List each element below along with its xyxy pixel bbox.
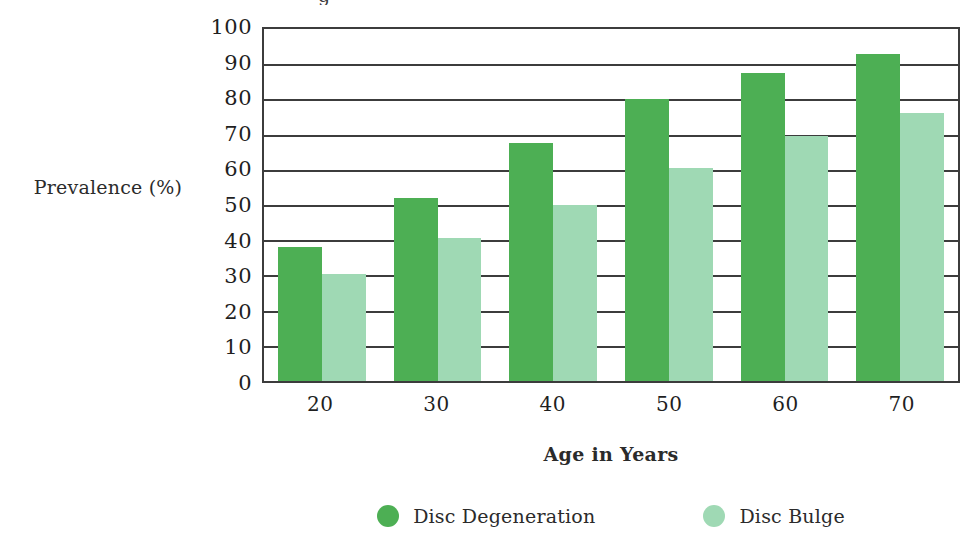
x-axis-tick-label: 60 (727, 392, 843, 416)
cropped-title-fragment: g (318, 0, 332, 5)
y-axis-tick-label: 70 (186, 123, 252, 144)
chart-legend: Disc DegenerationDisc Bulge (262, 505, 960, 527)
bar-disc-bulge-60 (785, 136, 829, 381)
bar-disc-degeneration-70 (856, 54, 900, 381)
y-axis-tick-label: 90 (186, 52, 252, 73)
legend-label: Disc Bulge (739, 505, 844, 527)
bar-disc-degeneration-30 (394, 198, 438, 381)
y-axis-tick-label: 100 (186, 17, 252, 38)
y-axis-tick-label: 20 (186, 301, 252, 322)
y-axis-title: Prevalence (%) (10, 176, 206, 198)
y-axis-tick-label: 50 (186, 195, 252, 216)
y-axis-tick-label: 10 (186, 337, 252, 358)
bar-disc-degeneration-60 (741, 73, 785, 381)
bar-group (842, 29, 958, 381)
x-axis-tick-label: 50 (611, 392, 727, 416)
bar-disc-degeneration-40 (509, 143, 553, 381)
bar-disc-bulge-40 (553, 205, 597, 381)
x-axis-tick-labels: 203040506070 (262, 392, 960, 416)
legend-item-disc-bulge[interactable]: Disc Bulge (703, 505, 844, 527)
x-axis-tick-label: 70 (844, 392, 960, 416)
y-axis-tick-label: 60 (186, 159, 252, 180)
legend-label: Disc Degeneration (413, 505, 595, 527)
bar-group (264, 29, 380, 381)
bar-group (495, 29, 611, 381)
legend-swatch-circle-icon (377, 505, 399, 527)
bar-disc-bulge-20 (322, 274, 366, 381)
bar-disc-degeneration-20 (278, 247, 322, 381)
x-axis-tick-label: 20 (262, 392, 378, 416)
y-axis-tick-label: 0 (186, 373, 252, 394)
bar-disc-bulge-30 (438, 238, 482, 381)
y-axis-tick-labels: 0102030405060708090100 (186, 27, 252, 383)
plot-area (262, 27, 960, 383)
x-axis-tick-label: 30 (378, 392, 494, 416)
bar-disc-bulge-70 (900, 113, 944, 381)
bar-group (727, 29, 843, 381)
bars-layer (264, 29, 958, 381)
legend-swatch-circle-icon (703, 505, 725, 527)
bar-group (611, 29, 727, 381)
x-axis-title: Age in Years (262, 443, 960, 465)
y-axis-tick-label: 40 (186, 230, 252, 251)
y-axis-tick-label: 80 (186, 88, 252, 109)
legend-item-disc-degeneration[interactable]: Disc Degeneration (377, 505, 595, 527)
y-axis-tick-label: 30 (186, 266, 252, 287)
bar-disc-bulge-50 (669, 168, 713, 381)
x-axis-tick-label: 40 (495, 392, 611, 416)
bar-group (380, 29, 496, 381)
bar-disc-degeneration-50 (625, 99, 669, 381)
